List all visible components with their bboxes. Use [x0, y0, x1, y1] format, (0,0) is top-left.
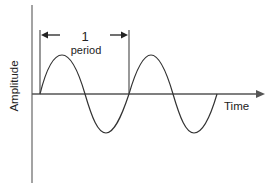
period-number-label: 1: [81, 29, 88, 44]
period-right-arrow-icon: [121, 32, 128, 39]
period-left-arrow-icon: [41, 32, 48, 39]
amplitude-axis-label: Amplitude: [8, 60, 20, 111]
time-axis-arrow-icon: [256, 90, 265, 98]
time-axis-label: Time: [224, 100, 249, 112]
sine-wave-diagram: 1 period Time Amplitude: [0, 0, 269, 190]
period-text-label: period: [71, 44, 102, 56]
